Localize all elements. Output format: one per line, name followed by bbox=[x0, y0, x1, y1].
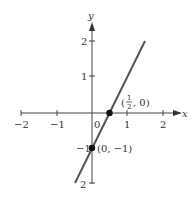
tick-y-2: 2 bbox=[81, 36, 87, 47]
label-point-x-intercept: ( 1 2 , 0) bbox=[121, 94, 150, 111]
tick-y-neg2: 2 bbox=[80, 179, 86, 190]
tick-x-neg1: −1 bbox=[50, 119, 65, 130]
tick-y-neg1: −1 bbox=[76, 143, 91, 154]
svg-text:(: ( bbox=[121, 97, 125, 108]
chart-canvas: y x −2 −1 0 1 2 2 1 −1 2 ( 1 2 , 0) (0, … bbox=[0, 0, 194, 197]
y-axis-arrow-icon bbox=[89, 22, 95, 31]
label-point-y-intercept: (0, −1) bbox=[97, 143, 132, 154]
tick-x-1: 1 bbox=[124, 119, 130, 130]
x-axis bbox=[21, 110, 182, 116]
tick-x-2: 2 bbox=[160, 119, 166, 130]
svg-text:1: 1 bbox=[127, 94, 131, 102]
x-axis-label: x bbox=[182, 108, 188, 119]
point-x-intercept bbox=[106, 110, 112, 116]
tick-y-1: 1 bbox=[81, 71, 87, 82]
y-axis bbox=[89, 22, 95, 184]
svg-text:, 0): , 0) bbox=[133, 97, 150, 108]
tick-x-origin: 0 bbox=[94, 119, 100, 130]
y-axis-label: y bbox=[87, 10, 94, 21]
x-axis-arrow-icon bbox=[173, 110, 182, 116]
tick-x-neg2: −2 bbox=[14, 119, 29, 130]
svg-text:2: 2 bbox=[127, 103, 131, 111]
